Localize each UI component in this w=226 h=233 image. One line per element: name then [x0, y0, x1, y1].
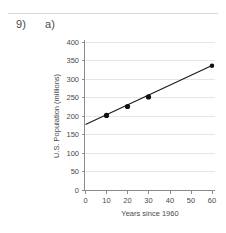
x-axis-title: Years since 1960	[121, 209, 178, 218]
y-tick-label: 300	[66, 75, 79, 84]
y-tick-label: 350	[66, 56, 79, 65]
data-point	[125, 104, 130, 109]
x-tick-labels: 0 10 20 30 40 50 60	[83, 196, 216, 205]
worksheet-page: 9) a)	[0, 0, 226, 233]
x-tick-label: 50	[187, 196, 195, 205]
question-number: 9)	[16, 18, 26, 30]
gridlines	[85, 43, 215, 172]
y-tick-label: 250	[66, 93, 79, 102]
x-tick-label: 10	[102, 196, 110, 205]
x-tick-label: 40	[166, 196, 174, 205]
y-axis-title: U.S. Population (millions)	[52, 73, 61, 158]
x-tick-label: 0	[83, 196, 87, 205]
y-tick-label: 100	[66, 149, 79, 158]
y-tick-label: 50	[71, 167, 79, 176]
y-tick-label: 150	[66, 130, 79, 139]
page-divider	[8, 13, 218, 14]
x-tick-label: 30	[144, 196, 152, 205]
chart-figure: 400 350 300 250 200 150 100 50 0 0 10 20…	[0, 30, 226, 233]
y-tick-label: 200	[66, 112, 79, 121]
data-point	[210, 64, 214, 68]
y-tick-label: 0	[75, 186, 79, 195]
data-point	[104, 113, 109, 118]
y-tick-labels: 400 350 300 250 200 150 100 50 0	[66, 38, 79, 195]
question-part-label: a)	[45, 18, 55, 30]
scatter-plot-svg: 400 350 300 250 200 150 100 50 0 0 10 20…	[0, 30, 226, 233]
data-point	[146, 94, 151, 99]
x-tick-label: 20	[123, 196, 131, 205]
x-tick-label: 60	[208, 196, 216, 205]
y-tick-label: 400	[66, 38, 79, 47]
